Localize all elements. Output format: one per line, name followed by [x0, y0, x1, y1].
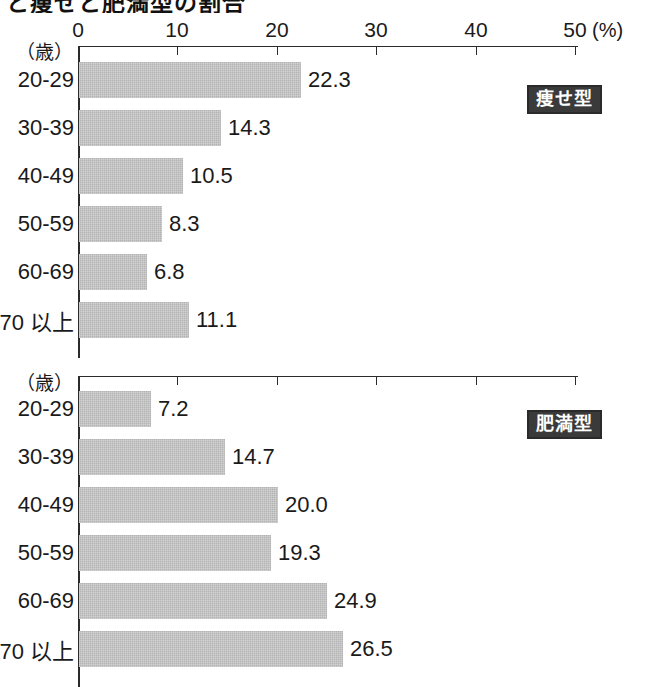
bar-value: 8.3 — [169, 211, 200, 237]
panel-obese: （歳） 肥満型 20-29 7.2 30-39 14.7 40-49 20.0 … — [0, 358, 651, 687]
bar-row: 30-39 14.3 — [0, 110, 651, 146]
bar-row: 20-29 7.2 — [0, 391, 651, 427]
bar-row: 30-39 14.7 — [0, 439, 651, 475]
chart-title-strip: と痩せと肥満型の割合 — [0, 0, 651, 13]
axis-tick-50-top — [575, 46, 576, 55]
axis-label-0: 0 — [72, 18, 84, 42]
bar-value: 6.8 — [154, 259, 185, 285]
category-label: 70 以上 — [0, 633, 74, 665]
bar-value: 20.0 — [285, 492, 328, 518]
bar-obese-20-29 — [79, 391, 151, 427]
bar-row: 60-69 24.9 — [0, 583, 651, 619]
panel-underweight: （歳） 0 10 20 30 40 50 (%) 痩せ型 20-29 22.3 … — [0, 13, 651, 358]
category-label: 60-69 — [18, 588, 74, 614]
bar-row: 50-59 19.3 — [0, 535, 651, 571]
bar-underweight-70-plus — [79, 302, 189, 338]
bar-value: 11.1 — [196, 307, 237, 333]
unit-caption-top: （歳） — [16, 37, 73, 64]
bar-underweight-50-59 — [79, 206, 162, 242]
chart-page: と痩せと肥満型の割合 （歳） 0 10 20 30 40 50 (%) 痩せ型 … — [0, 0, 651, 687]
category-label: 40-49 — [18, 163, 74, 189]
x-axis-top — [78, 46, 578, 47]
x-axis-bottom — [78, 376, 578, 377]
axis-label-40: 40 — [464, 18, 487, 42]
category-label: 20-29 — [18, 67, 74, 93]
category-label: 70 以上 — [0, 304, 74, 336]
axis-tick-50-bottom — [575, 376, 576, 385]
bar-row: 40-49 20.0 — [0, 487, 651, 523]
axis-tick-30-bottom — [376, 376, 377, 385]
category-label: 30-39 — [18, 115, 74, 141]
bar-value: 14.3 — [228, 115, 271, 141]
bar-row: 50-59 8.3 — [0, 206, 651, 242]
axis-tick-20-top — [277, 46, 278, 55]
page-title: と痩せと肥満型の割合 — [6, 0, 246, 13]
bar-value: 19.3 — [278, 540, 321, 566]
bar-underweight-60-69 — [79, 254, 147, 290]
category-label: 30-39 — [18, 444, 74, 470]
bar-value: 7.2 — [158, 396, 189, 422]
category-label: 50-59 — [18, 211, 74, 237]
axis-percent-label: (%) — [592, 19, 623, 42]
axis-tick-40-top — [476, 46, 477, 55]
bar-value: 24.9 — [334, 588, 377, 614]
category-label: 60-69 — [18, 259, 74, 285]
axis-tick-10-bottom — [177, 376, 178, 385]
bar-underweight-40-49 — [79, 158, 183, 194]
bar-row: 60-69 6.8 — [0, 254, 651, 290]
axis-label-50: 50 — [563, 18, 586, 42]
bar-row: 20-29 22.3 — [0, 62, 651, 98]
axis-tick-40-bottom — [476, 376, 477, 385]
bar-obese-50-59 — [79, 535, 271, 571]
bar-value: 10.5 — [190, 163, 233, 189]
bar-obese-60-69 — [79, 583, 327, 619]
bar-value: 22.3 — [308, 67, 351, 93]
category-label: 40-49 — [18, 492, 74, 518]
axis-label-10: 10 — [165, 18, 188, 42]
axis-tick-20-bottom — [277, 376, 278, 385]
bar-obese-40-49 — [79, 487, 278, 523]
axis-label-30: 30 — [364, 18, 387, 42]
bar-underweight-20-29 — [79, 62, 301, 98]
category-label: 20-29 — [18, 396, 74, 422]
bar-obese-30-39 — [79, 439, 225, 475]
bar-row: 70 以上 26.5 — [0, 631, 651, 667]
bar-row: 70 以上 11.1 — [0, 302, 651, 338]
bar-value: 26.5 — [350, 636, 393, 662]
axis-tick-10-top — [177, 46, 178, 55]
bar-obese-70-plus — [79, 631, 343, 667]
axis-label-20: 20 — [265, 18, 288, 42]
bar-underweight-30-39 — [79, 110, 221, 146]
axis-tick-30-top — [376, 46, 377, 55]
bar-row: 40-49 10.5 — [0, 158, 651, 194]
category-label: 50-59 — [18, 540, 74, 566]
bar-value: 14.7 — [232, 444, 275, 470]
